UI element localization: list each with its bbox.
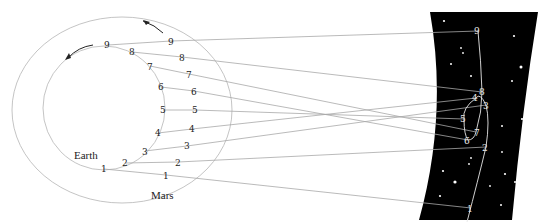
earth-pos-4: 4 bbox=[155, 128, 161, 138]
mars-pos-8: 8 bbox=[179, 53, 185, 63]
sky-pos-3: 3 bbox=[483, 101, 489, 111]
mars-pos-1: 1 bbox=[163, 171, 169, 181]
sky-pos-1: 1 bbox=[467, 204, 473, 214]
sky-pos-6: 6 bbox=[464, 136, 470, 146]
sky-pos-9: 9 bbox=[474, 26, 480, 36]
mars-pos-5: 5 bbox=[192, 105, 198, 115]
arrow-icon bbox=[143, 20, 150, 25]
earth-pos-1: 1 bbox=[101, 164, 107, 174]
mars-pos-4: 4 bbox=[189, 124, 195, 134]
mars-label: Mars bbox=[151, 189, 174, 201]
mars-pos-2: 2 bbox=[175, 158, 181, 168]
sky-pos-8: 8 bbox=[479, 87, 485, 97]
mars-pos-7: 7 bbox=[186, 70, 192, 80]
earth-pos-7: 7 bbox=[147, 62, 153, 72]
sky-pos-2: 2 bbox=[482, 143, 488, 153]
mars-retrograde-diagram: 1 2 3 4 5 6 7 8 9 1 2 3 4 5 6 7 8 9 1 2 … bbox=[0, 0, 542, 224]
earth-pos-3: 3 bbox=[142, 147, 148, 157]
mars-pos-9: 9 bbox=[168, 37, 174, 47]
mars-pos-6: 6 bbox=[191, 87, 197, 97]
earth-pos-8: 8 bbox=[129, 47, 135, 57]
sky-pos-7: 7 bbox=[474, 128, 480, 138]
sky-pos-5: 5 bbox=[460, 114, 466, 124]
earth-pos-6: 6 bbox=[158, 82, 164, 92]
earth-pos-9: 9 bbox=[104, 40, 110, 50]
arrow-icon bbox=[65, 53, 71, 60]
earth-pos-2: 2 bbox=[122, 158, 128, 168]
earth-label: Earth bbox=[74, 149, 98, 161]
mars-pos-3: 3 bbox=[184, 141, 190, 151]
sky-band bbox=[419, 12, 538, 220]
earth-position-labels: 1 2 3 4 5 6 7 8 9 bbox=[101, 40, 166, 174]
sky-pos-4: 4 bbox=[472, 93, 478, 103]
earth-pos-5: 5 bbox=[160, 105, 166, 115]
